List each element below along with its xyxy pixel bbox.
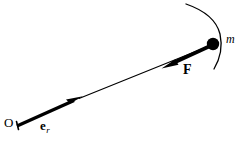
unit-vector-base-letter: e [40, 118, 46, 133]
force-shaft [172, 47, 209, 64]
trajectory-arc [186, 4, 221, 69]
force-label: F [183, 63, 192, 77]
vector-diagram-canvas [0, 0, 242, 142]
mass-marker-icon [207, 38, 219, 50]
origin-tick [17, 122, 19, 130]
mass-label: m [226, 33, 235, 45]
origin-label: O [4, 116, 13, 129]
unit-vector-label: er [40, 119, 50, 135]
unit-vector-subscript: r [46, 125, 50, 135]
